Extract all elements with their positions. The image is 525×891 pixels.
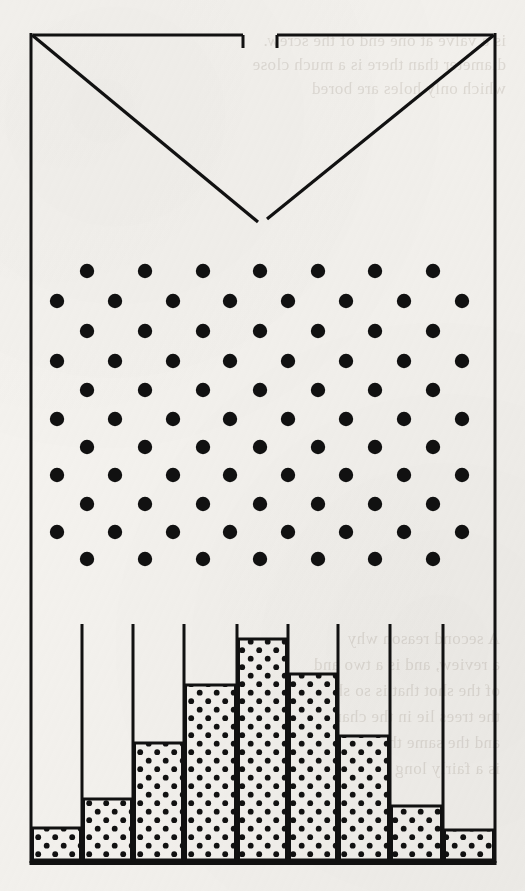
peg-dot-r3-c5	[311, 324, 325, 338]
peg-dot-r4-c4	[223, 354, 237, 368]
peg-dot-r5-c1	[80, 383, 94, 397]
peg-dot-r11-c6	[368, 552, 382, 566]
bin-4-shot-fill	[186, 685, 236, 860]
peg-dot-r4-c2	[108, 354, 122, 368]
bin-7	[340, 736, 389, 860]
peg-dot-r5-c7	[426, 383, 440, 397]
peg-dot-r4-c3	[166, 354, 180, 368]
peg-dot-r5-c6	[368, 383, 382, 397]
bin-3-shot-fill	[135, 743, 183, 860]
scanned-figure-page: is a valve at one end of the screw. diam…	[0, 0, 525, 891]
funnel-right-chute	[267, 35, 494, 219]
peg-dot-r5-c4	[253, 383, 267, 397]
bin-1	[33, 828, 81, 860]
peg-dot-r7-c5	[311, 440, 325, 454]
bin-6	[290, 674, 337, 860]
peg-dot-r2-c8	[455, 294, 469, 308]
bin-5-shot-fill	[239, 639, 287, 860]
peg-dot-r3-c7	[426, 324, 440, 338]
peg-dot-r3-c6	[368, 324, 382, 338]
peg-dot-r10-c6	[339, 525, 353, 539]
peg-dot-r10-c3	[166, 525, 180, 539]
peg-dot-r9-c3	[196, 497, 210, 511]
peg-dot-r7-c2	[138, 440, 152, 454]
peg-dot-r9-c6	[368, 497, 382, 511]
peg-dot-r6-c5	[281, 412, 295, 426]
peg-dot-r1-c3	[196, 264, 210, 278]
peg-dot-r8-c2	[108, 468, 122, 482]
peg-dot-r8-c3	[166, 468, 180, 482]
peg-dot-r4-c8	[455, 354, 469, 368]
peg-dot-r2-c6	[339, 294, 353, 308]
peg-dot-r11-c7	[426, 552, 440, 566]
peg-dot-r3-c3	[196, 324, 210, 338]
peg-dot-r6-c4	[223, 412, 237, 426]
peg-dot-r6-c8	[455, 412, 469, 426]
peg-dot-r1-c1	[80, 264, 94, 278]
peg-dot-r6-c1	[50, 412, 64, 426]
peg-dot-r1-c7	[426, 264, 440, 278]
peg-dot-r6-c7	[397, 412, 411, 426]
bin-1-shot-fill	[33, 828, 81, 860]
peg-dot-r4-c7	[397, 354, 411, 368]
peg-dot-r2-c3	[166, 294, 180, 308]
bin-2	[84, 799, 132, 860]
peg-dot-r5-c5	[311, 383, 325, 397]
bin-9-shot-fill	[445, 830, 494, 860]
peg-dot-r8-c8	[455, 468, 469, 482]
bin-8	[392, 806, 442, 860]
peg-dot-r2-c7	[397, 294, 411, 308]
peg-dot-r8-c7	[397, 468, 411, 482]
peg-dot-r5-c2	[138, 383, 152, 397]
peg-dot-r11-c4	[253, 552, 267, 566]
collecting-bins	[33, 624, 494, 861]
bin-4	[186, 685, 236, 860]
quincunx-figure	[0, 0, 525, 891]
peg-dot-r6-c6	[339, 412, 353, 426]
peg-dot-r8-c1	[50, 468, 64, 482]
peg-dot-r11-c3	[196, 552, 210, 566]
peg-dot-r10-c8	[455, 525, 469, 539]
bin-3	[135, 743, 183, 860]
peg-dot-r10-c5	[281, 525, 295, 539]
peg-dot-r3-c4	[253, 324, 267, 338]
peg-dot-r7-c7	[426, 440, 440, 454]
peg-dot-r9-c7	[426, 497, 440, 511]
peg-dot-r4-c1	[50, 354, 64, 368]
peg-dot-r8-c6	[339, 468, 353, 482]
peg-dot-r5-c3	[196, 383, 210, 397]
peg-dot-r10-c2	[108, 525, 122, 539]
peg-dot-r9-c2	[138, 497, 152, 511]
peg-dot-r4-c6	[339, 354, 353, 368]
bin-6-shot-fill	[290, 674, 337, 860]
peg-dot-r1-c5	[311, 264, 325, 278]
peg-dot-r6-c2	[108, 412, 122, 426]
bin-9	[445, 830, 494, 860]
bin-7-shot-fill	[340, 736, 389, 860]
peg-dot-r1-c2	[138, 264, 152, 278]
bin-8-shot-fill	[392, 806, 442, 860]
peg-dot-r7-c6	[368, 440, 382, 454]
peg-dot-r9-c5	[311, 497, 325, 511]
peg-dot-r2-c4	[223, 294, 237, 308]
peg-dot-r10-c1	[50, 525, 64, 539]
funnel-left-chute	[32, 35, 258, 222]
peg-dot-r2-c1	[50, 294, 64, 308]
funnel-hopper	[32, 35, 494, 222]
peg-dot-r7-c1	[80, 440, 94, 454]
bin-5	[239, 639, 287, 860]
peg-dot-r9-c4	[253, 497, 267, 511]
peg-dot-r1-c4	[253, 264, 267, 278]
peg-dot-r10-c7	[397, 525, 411, 539]
peg-dot-r8-c5	[281, 468, 295, 482]
peg-dot-r4-c5	[281, 354, 295, 368]
peg-dot-r3-c1	[80, 324, 94, 338]
peg-dot-r9-c1	[80, 497, 94, 511]
peg-dot-r3-c2	[138, 324, 152, 338]
peg-dot-r11-c1	[80, 552, 94, 566]
peg-dot-r2-c2	[108, 294, 122, 308]
peg-dot-r6-c3	[166, 412, 180, 426]
peg-dot-r11-c5	[311, 552, 325, 566]
peg-dot-r10-c4	[223, 525, 237, 539]
peg-dot-r1-c6	[368, 264, 382, 278]
